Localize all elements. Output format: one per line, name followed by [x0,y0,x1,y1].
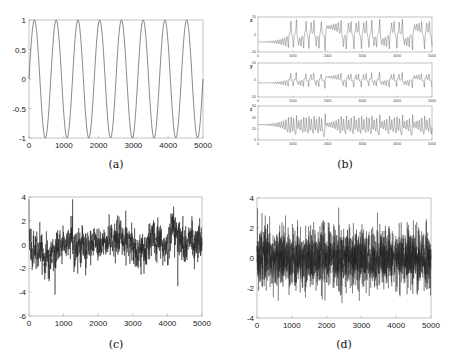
y-tick-label: 0 [254,138,256,142]
x-tick-label: 2000 [89,319,107,328]
x-tick-label: 1000 [289,142,297,146]
x-tick-label: 4000 [393,54,401,58]
y-tick-label: 20 [252,15,256,19]
x-tick-label: 2000 [318,321,336,330]
data-line [258,114,432,137]
y-tick-label: -2 [19,264,27,273]
y-tick-label: 0 [250,254,255,263]
y-tick-label: 4 [22,193,27,202]
caption-b: (b) [337,158,353,171]
y-tick-label: -6 [19,312,27,321]
subplot-d: 010002000300040005000-4-2024 [247,194,441,330]
y-tick-label: 0 [254,33,256,37]
y-tick-label: 2 [250,224,255,233]
y-tick-label: -20 [251,50,256,54]
y-tick-label: -4 [247,314,255,323]
x-tick-label: 5000 [194,141,212,150]
data-line [29,20,203,138]
y-tick-label: -1 [19,134,27,143]
x-tick-label: 2000 [324,54,332,58]
y-tick-label: 0 [22,241,27,250]
y-tick-label: -2 [247,284,255,293]
x-tick-label: 4000 [387,321,405,330]
x-tick-label: 3000 [124,319,142,328]
y-tick-label: 2 [22,217,27,226]
y-tick-label: -0.5 [12,105,26,114]
caption-c: (c) [109,338,124,351]
y-tick-label: 4 [250,194,255,203]
x-tick-label: 0 [257,142,259,146]
x-tick-label: 1000 [55,141,73,150]
x-tick-label: 3000 [359,54,367,58]
axes-frame [258,17,432,52]
data-line [258,19,432,50]
y-tick-label: 0 [22,75,27,84]
data-line [258,72,432,88]
x-tick-label: 2000 [324,99,332,103]
data-line [29,199,202,294]
figure-canvas: 010002000300040005000-1-0.500.5101000200… [0,0,454,363]
y-tick-label: 0.5 [15,46,27,55]
subplot-a: 010002000300040005000-1-0.500.51 [12,16,212,150]
x-tick-label: 1000 [289,99,297,103]
x-tick-label: 3000 [125,141,143,150]
x-tick-label: 0 [257,99,259,103]
data-line [257,208,431,303]
x-tick-label: 0 [27,141,32,150]
x-tick-label: 4000 [159,141,177,150]
y-tick-label: 1 [22,16,27,25]
x-tick-label: 1000 [55,319,73,328]
x-tick-label: 5000 [193,319,211,328]
caption-d: (d) [336,338,352,351]
y-tick-label: 20 [252,127,256,131]
x-tick-label: 4000 [393,142,401,146]
y-tick-label: 50 [252,61,256,65]
x-tick-label: 0 [257,54,259,58]
x-tick-label: 2000 [90,141,108,150]
x-tick-label: 4000 [159,319,177,328]
x-tick-label: 3000 [359,99,367,103]
x-tick-label: 3000 [359,142,367,146]
x-tick-label: 3000 [353,321,371,330]
caption-a: (a) [108,158,123,171]
x-tick-label: 5000 [428,142,436,146]
x-tick-label: 4000 [393,99,401,103]
subplot-c: 010002000300040005000-6-4-2024 [19,193,212,328]
x-tick-label: 0 [27,319,32,328]
x-tick-label: 2000 [324,142,332,146]
x-tick-label: 5000 [422,321,440,330]
y-tick-label: -50 [251,95,256,99]
y-tick-label: 0 [254,78,256,82]
x-tick-label: 5000 [428,99,436,103]
axes-frame [258,63,432,97]
x-tick-label: 1000 [289,54,297,58]
subplot-b-x: 010002000300040005000-20020x [250,15,436,58]
subplot-b-y: 010002000300040005000-50050y [250,61,436,103]
y-tick-label: 60 [252,104,256,108]
subplot-b-z: 0100020003000400050000204060z [250,104,436,146]
x-tick-label: 5000 [428,54,436,58]
x-tick-label: 1000 [283,321,301,330]
y-tick-label: -4 [19,288,27,297]
y-tick-label: 40 [252,116,256,120]
x-tick-label: 0 [255,321,260,330]
